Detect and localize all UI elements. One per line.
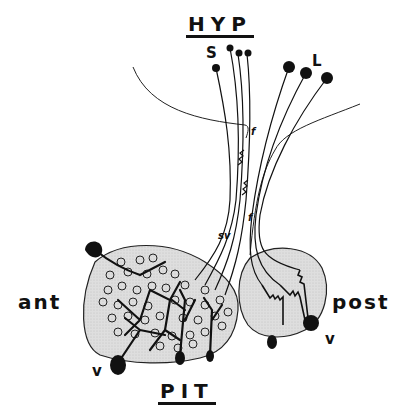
hypothalamus-outline-right: [250, 104, 360, 255]
label-small-cells: S: [206, 44, 217, 62]
label-pituitary: PIT: [158, 381, 216, 405]
large-cell-bodies: [283, 61, 333, 84]
label-hypothalamus: HYP: [186, 14, 254, 38]
small-cell-fibers: [195, 48, 250, 295]
label-fiber-lower: f: [248, 212, 252, 223]
label-large-cells: L: [312, 52, 322, 70]
label-sv: sv: [218, 230, 230, 241]
label-fiber-upper: f: [251, 126, 255, 137]
label-anterior: ant: [18, 290, 61, 314]
hypothalamo-pituitary-diagram: HYP S L f f sv ant post v v PIT: [0, 0, 420, 419]
label-vessel-right: v: [325, 330, 335, 348]
label-posterior: post: [332, 290, 390, 314]
hypothalamus-outline-left: [133, 67, 248, 138]
diagram-drawing: [0, 0, 420, 419]
label-vessel-left: v: [92, 362, 102, 380]
